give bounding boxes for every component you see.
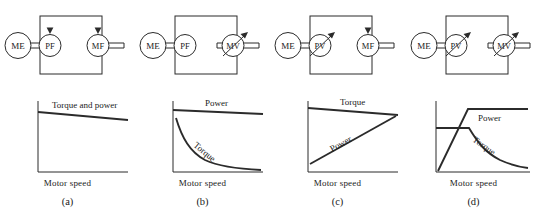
x-axis-label-d: Motor speed [406, 178, 541, 188]
panel-c: ME PV MF Torque Power Motor speed (c) [270, 0, 405, 221]
curve-torque-b [176, 118, 261, 170]
pump-flow-arrow-a [47, 28, 54, 35]
prime-mover-label-b: ME [146, 41, 160, 51]
panel-label-a: (a) [0, 196, 135, 207]
circuit-diagram-a: ME PF MF [0, 2, 135, 92]
panel-label-d: (d) [406, 196, 541, 207]
pump-label-b: PF [180, 41, 190, 51]
motor-label-c: MF [362, 41, 375, 51]
prime-mover-label-a: ME [11, 41, 25, 51]
curve-power-c [310, 116, 396, 164]
curve-torque-c [308, 108, 398, 115]
x-axis-label-a: Motor speed [0, 178, 135, 188]
motor-label-a: MF [92, 41, 105, 51]
curve-label-power-c: Power [328, 134, 353, 154]
curve-label-torque-c: Torque [340, 97, 365, 107]
curve-label-torque-and-power-a: Torque and power [52, 100, 117, 110]
motor-flow-arrow-c [365, 28, 372, 35]
panel-a: ME PF MF Torque and power Motor speed (a… [0, 0, 135, 221]
curve-label-power-d: Power [478, 113, 501, 123]
prime-mover-label-d: ME [417, 41, 431, 51]
prime-mover-label-c: ME [281, 41, 295, 51]
panel-d: ME PV MV Power [406, 0, 541, 221]
circuit-diagram-c: ME PV MF [270, 2, 405, 92]
chart-c: Torque Power [270, 96, 405, 180]
x-axis-label-b: Motor speed [135, 178, 270, 188]
chart-a: Torque and power [0, 96, 135, 180]
curve-label-torque-d: Torque [471, 134, 498, 157]
chart-b: Power Torque [135, 96, 270, 180]
x-axis-label-c: Motor speed [270, 178, 405, 188]
chart-d: Power Torque [406, 96, 541, 180]
circuit-diagram-b: ME PF MV [135, 2, 270, 92]
motor-flow-arrow-a [95, 28, 102, 35]
panel-label-c: (c) [270, 196, 405, 207]
curve-torque-and-power-a [38, 112, 128, 120]
curve-label-power-b: Power [205, 98, 228, 108]
circuit-diagram-d: ME PV MV [406, 2, 541, 92]
curve-power-b [173, 110, 263, 114]
panel-b: ME PF MV Power Torque Motor speed (b) [135, 0, 270, 221]
panel-label-b: (b) [135, 196, 270, 207]
pump-label-a: PF [45, 41, 55, 51]
